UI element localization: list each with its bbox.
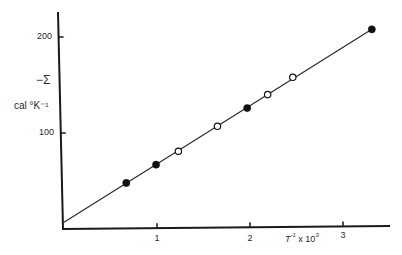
y-axis-label-symbol: −Σ <box>36 73 50 87</box>
y-axis <box>58 12 63 229</box>
y-tick-label-200: 200 <box>22 31 52 41</box>
filled-circle-marker <box>152 161 159 168</box>
open-circle-marker <box>214 123 220 129</box>
y-axis-label-unit: cal °K⁻¹ <box>14 100 49 111</box>
filled-circle-marker <box>123 179 130 186</box>
open-circle-marker <box>264 91 270 97</box>
open-circle-marker <box>175 148 181 154</box>
x-tick-label-1: 1 <box>151 233 163 243</box>
y-tick-label-100: 100 <box>24 127 54 137</box>
x-tick-label-3: 3 <box>337 230 349 240</box>
x-axis-label-scale: x 10 <box>298 234 315 244</box>
x-tick-label-2: 2 <box>244 233 256 243</box>
open-circle-marker <box>290 74 296 80</box>
axes <box>58 12 390 229</box>
x-axis-label-exp: -1 <box>291 232 296 238</box>
filled-circle-marker <box>368 26 375 33</box>
x-axis-label: T-1 x 103 <box>285 232 319 244</box>
x-axis <box>62 226 390 229</box>
x-axis-label-scale-exp: 3 <box>315 232 318 238</box>
chart-canvas <box>0 0 402 255</box>
filled-circle-marker <box>244 104 251 111</box>
